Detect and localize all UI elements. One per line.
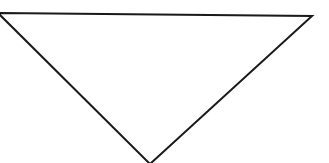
diagram-canvas xyxy=(0,0,329,163)
inverted-triangle-shape xyxy=(0,13,312,163)
